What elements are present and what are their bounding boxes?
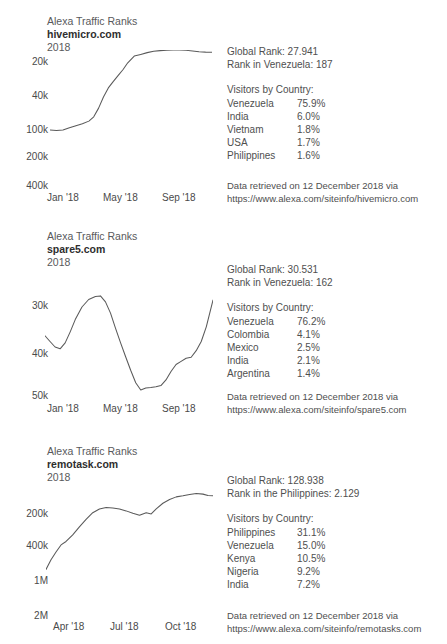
visitors-title: Visitors by Country: [227,83,333,96]
x-tick-label: Oct '18 [165,621,196,632]
visitor-country: Venezuela [227,539,289,552]
visitors-title: Visitors by Country: [227,512,359,525]
visitor-pct: 4.1% [289,328,325,341]
y-tick-label: 50k [8,390,48,401]
chart-info-block: Global Rank: 30.531 Rank in Venezuela: 1… [227,263,333,381]
visitor-pct: 6.0% [289,110,325,123]
country-rank-text: Rank in Venezuela: 187 [227,58,333,71]
source-note: Data retrieved on 12 December 2018 via h… [227,180,418,205]
visitor-pct: 1.8% [289,123,325,136]
table-row: India7.2% [227,578,325,591]
x-tick-label: Jan '18 [47,403,79,414]
y-tick-label: 2M [8,610,48,621]
table-row: Vietnam1.8% [227,123,325,136]
visitor-country: Vietnam [227,123,289,136]
source-link[interactable]: https://www.alexa.com/siteinfo/spare5.co… [227,404,407,417]
source-link[interactable]: https://www.alexa.com/siteinfo/remotasks… [227,623,421,636]
y-tick-label: 200k [8,151,48,162]
table-row: India2.1% [227,354,325,367]
table-row: Venezuela15.0% [227,539,325,552]
source-line-1: Data retrieved on 12 December 2018 via [227,180,418,193]
line-chart-svg [46,485,213,597]
x-tick-label: Sep '18 [162,403,196,414]
visitor-country: Colombia [227,328,289,341]
y-tick-label: 400k [8,180,48,191]
y-tick-label: 100k [8,124,48,135]
table-row: Venezuela75.9% [227,97,325,110]
table-row: Kenya10.5% [227,552,325,565]
chart-plot-area [45,287,213,400]
y-tick-label: 1M [8,575,48,586]
chart-panel-hivemicro: Alexa Traffic Ranks hivemicro.com 2018 2… [0,0,447,215]
chart-plot-area [50,50,212,185]
visitors-title: Visitors by Country: [227,301,333,314]
chart-site-name: spare5.com [47,243,137,256]
visitor-country: Philippines [227,149,289,162]
y-tick-label: 20k [8,56,48,67]
visitors-table: Philippines31.1% Venezuela15.0% Kenya10.… [227,526,325,592]
global-rank-text: Global Rank: 27.941 [227,45,333,58]
visitor-pct: 9.2% [289,565,325,578]
y-tick-label: 40k [8,90,48,101]
visitor-country: USA [227,136,289,149]
table-row: USA1.7% [227,136,325,149]
chart-panel-remotask: Alexa Traffic Ranks remotask.com 2018 20… [0,430,447,644]
visitor-country: India [227,354,289,367]
visitor-pct: 10.5% [289,552,325,565]
visitor-pct: 1.7% [289,136,325,149]
country-rank-text: Rank in Venezuela: 162 [227,276,333,289]
x-tick-label: Sep '18 [162,192,196,203]
chart-info-block: Global Rank: 27.941 Rank in Venezuela: 1… [227,45,333,163]
chart-year: 2018 [47,256,137,269]
chart-year: 2018 [47,471,137,484]
visitors-table: Venezuela75.9% India6.0% Vietnam1.8% USA… [227,97,325,163]
visitor-country: Philippines [227,526,289,539]
visitor-pct: 2.5% [289,341,325,354]
y-tick-label: 30k [8,300,48,311]
table-row: Venezuela76.2% [227,315,325,328]
chart-kicker: Alexa Traffic Ranks [47,445,137,458]
table-row: Argentina1.4% [227,367,325,380]
source-line-1: Data retrieved on 12 December 2018 via [227,391,407,404]
visitor-country: Venezuela [227,97,289,110]
chart-header: Alexa Traffic Ranks remotask.com 2018 [47,445,137,484]
visitor-country: Nigeria [227,565,289,578]
table-row: Philippines31.1% [227,526,325,539]
visitor-country: India [227,578,289,591]
source-note: Data retrieved on 12 December 2018 via h… [227,610,421,635]
x-tick-label: May '18 [103,403,138,414]
country-rank-text: Rank in the Philippines: 2.129 [227,487,359,500]
chart-site-name: hivemicro.com [47,28,137,41]
chart-line-series [46,494,213,570]
y-tick-label: 200k [8,508,48,519]
chart-line-series [50,50,212,131]
x-tick-label: Apr '18 [53,621,84,632]
visitors-table: Venezuela76.2% Colombia4.1% Mexico2.5% I… [227,315,325,381]
chart-plot-area [46,485,213,597]
chart-kicker: Alexa Traffic Ranks [47,15,137,28]
chart-header: Alexa Traffic Ranks hivemicro.com 2018 [47,15,137,54]
chart-info-block: Global Rank: 128.938 Rank in the Philipp… [227,474,359,592]
visitor-pct: 2.1% [289,354,325,367]
visitor-pct: 75.9% [289,97,325,110]
visitor-pct: 1.4% [289,367,325,380]
chart-kicker: Alexa Traffic Ranks [47,230,137,243]
visitor-country: Mexico [227,341,289,354]
chart-header: Alexa Traffic Ranks spare5.com 2018 [47,230,137,269]
visitor-pct: 31.1% [289,526,325,539]
source-line-1: Data retrieved on 12 December 2018 via [227,610,421,623]
y-tick-label: 40k [8,348,48,359]
table-row: Colombia4.1% [227,328,325,341]
global-rank-text: Global Rank: 30.531 [227,263,333,276]
chart-site-name: remotask.com [47,458,137,471]
table-row: India6.0% [227,110,325,123]
global-rank-text: Global Rank: 128.938 [227,474,359,487]
visitor-pct: 1.6% [289,149,325,162]
source-note: Data retrieved on 12 December 2018 via h… [227,391,407,416]
line-chart-svg [45,287,213,400]
visitor-country: India [227,110,289,123]
table-row: Philippines1.6% [227,149,325,162]
x-tick-label: Jul '18 [110,621,139,632]
source-link[interactable]: https://www.alexa.com/siteinfo/hivemicro… [227,193,418,206]
x-tick-label: Jan '18 [47,192,79,203]
